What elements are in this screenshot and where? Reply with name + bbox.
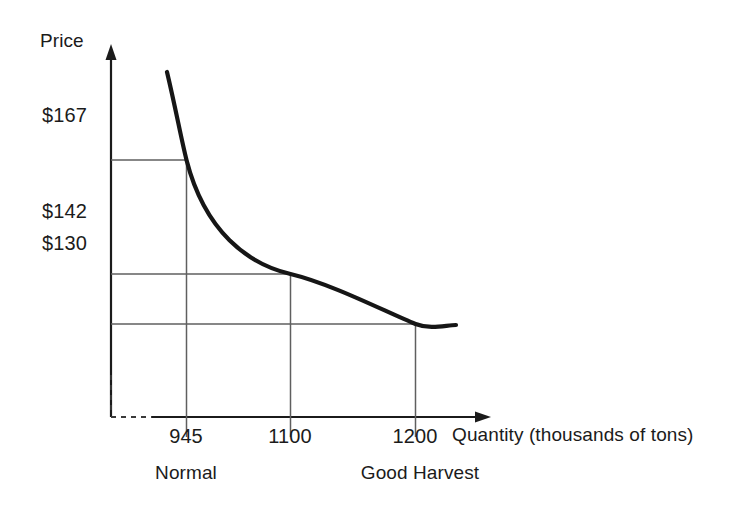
x-tick-label-945: 945 <box>152 425 220 448</box>
y-tick-label-142: $142 <box>42 200 87 223</box>
x-axis <box>152 412 491 423</box>
scenario-label-normal: Normal <box>142 462 230 484</box>
y-axis-arrow-icon <box>106 44 117 60</box>
y-axis <box>106 44 117 417</box>
x-tick-label-1200: 1200 <box>381 425 449 448</box>
scenario-label-good-harvest: Good Harvest <box>350 462 490 484</box>
demand-curve <box>167 72 456 327</box>
price-gridlines <box>111 160 416 324</box>
y-axis-title: Price <box>40 30 84 52</box>
x-axis-title: Quantity (thousands of tons) <box>452 424 694 446</box>
demand-curve-figure: Price Quantity (thousands of tons) $167 … <box>0 0 744 517</box>
x-axis-arrow-icon <box>475 412 491 423</box>
quantity-gridlines <box>187 160 416 437</box>
x-tick-label-1100: 1100 <box>256 425 324 448</box>
y-tick-label-130: $130 <box>42 232 87 255</box>
y-tick-label-167: $167 <box>42 104 87 127</box>
axis-break-dashes <box>111 375 152 417</box>
